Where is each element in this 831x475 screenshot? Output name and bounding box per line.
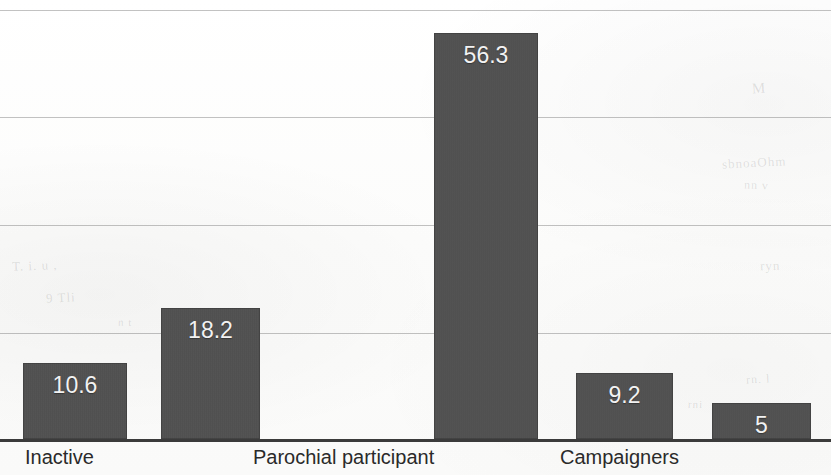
gridline-0 bbox=[0, 10, 831, 11]
bar-value-label-3: 9.2 bbox=[576, 384, 673, 407]
gridline-1 bbox=[0, 117, 831, 118]
x-axis-line bbox=[0, 439, 831, 442]
bar-value-label-0: 10.6 bbox=[23, 374, 127, 397]
bar-parochial bbox=[434, 33, 538, 439]
tick-label-parochial: Parochial participant bbox=[253, 447, 434, 467]
bar-value-label-4: 5 bbox=[712, 414, 811, 437]
bar-value-label-2: 56.3 bbox=[434, 44, 538, 67]
gridline-2 bbox=[0, 225, 831, 226]
tick-label-inactive: Inactive bbox=[25, 447, 94, 467]
bar-chart-figure: MsbnoaOhmnn vrynT. i. u ,9 Tlin tmtro ir… bbox=[0, 0, 831, 475]
plot-area: 10.618.256.39.25 bbox=[0, 0, 831, 440]
bar-value-label-1: 18.2 bbox=[161, 319, 260, 342]
gridline-3 bbox=[0, 333, 831, 334]
tick-label-campaigners: Campaigners bbox=[560, 447, 679, 467]
